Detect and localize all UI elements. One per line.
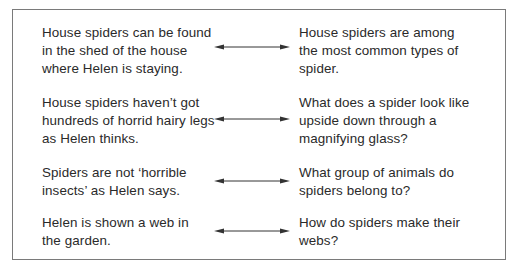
text-line: spider. <box>299 60 458 78</box>
double-headed-arrow-icon <box>214 114 290 124</box>
text-line: magnifying glass? <box>299 130 469 148</box>
fact-text: Helen is shown a web in the garden. <box>42 214 189 250</box>
text-line: in the shed of the house <box>42 42 211 60</box>
text-line: What group of animals do <box>299 164 454 182</box>
text-line: House spiders can be found <box>42 24 211 42</box>
text-line: Helen is shown a web in <box>42 214 189 232</box>
text-line: House spiders haven’t got <box>42 94 215 112</box>
text-line: webs? <box>299 232 460 250</box>
text-line: How do spiders make their <box>299 214 460 232</box>
double-headed-arrow-icon <box>214 176 290 186</box>
figure-box: House spiders can be found in the shed o… <box>12 9 506 260</box>
question-text: How do spiders make their webs? <box>299 214 460 250</box>
question-text: What group of animals do spiders belong … <box>299 164 454 200</box>
text-line: spiders belong to? <box>299 182 454 200</box>
text-line: hundreds of horrid hairy legs <box>42 112 215 130</box>
text-line: upside down through a <box>299 112 469 130</box>
text-line: House spiders are among <box>299 24 458 42</box>
question-text: House spiders are among the most common … <box>299 24 458 78</box>
fact-text: House spiders can be found in the shed o… <box>42 24 211 78</box>
text-line: as Helen thinks. <box>42 130 215 148</box>
question-text: What does a spider look like upside down… <box>299 94 469 148</box>
double-headed-arrow-icon <box>214 42 290 52</box>
text-line: What does a spider look like <box>299 94 469 112</box>
text-line: Spiders are not ‘horrible <box>42 164 187 182</box>
clipped-caption <box>12 274 72 280</box>
double-headed-arrow-icon <box>214 226 290 236</box>
text-line: insects’ as Helen says. <box>42 182 187 200</box>
fact-text: House spiders haven’t got hundreds of ho… <box>42 94 215 148</box>
text-line: where Helen is staying. <box>42 60 211 78</box>
fact-text: Spiders are not ‘horrible insects’ as He… <box>42 164 187 200</box>
text-line: the garden. <box>42 232 189 250</box>
text-line: the most common types of <box>299 42 458 60</box>
